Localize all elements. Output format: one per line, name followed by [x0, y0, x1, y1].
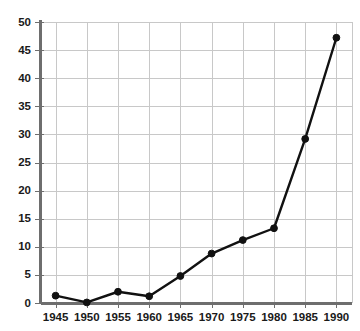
y-axis-tick-label: 30 [18, 128, 31, 140]
x-axis-tick-label: 1980 [261, 311, 287, 323]
x-axis-tick-label: 1965 [168, 311, 194, 323]
y-axis-tick-label: 40 [18, 72, 31, 84]
data-point-marker[interactable] [239, 237, 246, 244]
data-point-marker[interactable] [115, 288, 122, 295]
y-axis-tick-label: 20 [18, 184, 31, 196]
y-axis-tick-label: 10 [18, 240, 31, 252]
data-point-marker[interactable] [177, 273, 184, 280]
data-series-group [52, 34, 340, 306]
x-axis-tick-label: 1960 [136, 311, 162, 323]
x-axis-tick-label: 1975 [230, 311, 256, 323]
data-point-marker[interactable] [208, 250, 215, 257]
ticks-group [35, 23, 337, 309]
data-point-marker[interactable] [302, 136, 309, 143]
data-point-marker[interactable] [146, 293, 153, 300]
x-axis-labels: 1945195019551960196519701975198019851990 [43, 311, 349, 323]
x-axis-tick-label: 1990 [324, 311, 350, 323]
x-axis-tick-label: 1950 [74, 311, 100, 323]
data-point-marker[interactable] [52, 292, 59, 299]
data-point-marker[interactable] [333, 34, 340, 41]
y-axis-tick-label: 45 [18, 44, 31, 56]
y-axis-labels: 05101520253035404550 [18, 16, 31, 309]
y-axis-tick-label: 15 [18, 212, 31, 224]
y-axis-tick-label: 0 [25, 297, 31, 309]
x-axis-tick-label: 1945 [43, 311, 69, 323]
y-axis-tick-label: 50 [18, 16, 31, 28]
y-axis-tick-label: 25 [18, 156, 31, 168]
data-point-marker[interactable] [271, 225, 278, 232]
series-line [56, 38, 337, 303]
x-axis-tick-label: 1970 [199, 311, 225, 323]
chart-canvas: 0510152025303540455019451950195519601965… [0, 0, 360, 331]
gridlines-group [40, 22, 353, 304]
data-point-marker[interactable] [83, 299, 90, 306]
x-axis-tick-label: 1955 [105, 311, 131, 323]
y-axis-tick-label: 35 [18, 100, 31, 112]
x-axis-tick-label: 1985 [292, 311, 318, 323]
y-axis-tick-label: 5 [25, 268, 32, 280]
line-chart: 0510152025303540455019451950195519601965… [0, 0, 360, 331]
